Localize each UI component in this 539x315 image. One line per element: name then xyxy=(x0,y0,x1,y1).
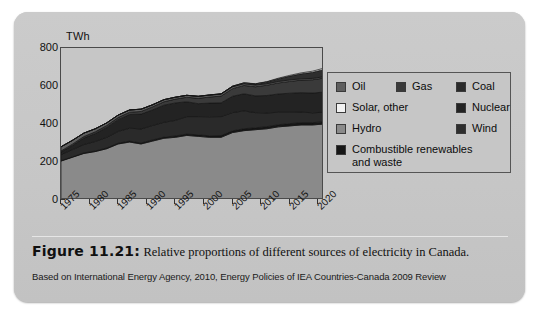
chart-figure: TWh 0200400600800 1975198019851990199520… xyxy=(14,12,525,230)
legend-label-gas: Gas xyxy=(412,80,432,93)
legend-label-combustible-renewables: Combustible renewables and waste xyxy=(352,143,480,169)
legend-swatch-combustible-renewables xyxy=(336,145,346,155)
figure-caption: Figure 11.21: Relative proportions of di… xyxy=(32,244,510,260)
x-axis-tick-labels: 1975198019851990199520002005201020152020 xyxy=(60,204,350,234)
legend-label-nuclear: Nuclear xyxy=(472,101,510,114)
y-tick-label: 400 xyxy=(24,117,58,129)
legend-swatch-nuclear xyxy=(456,103,466,113)
caption-divider xyxy=(32,236,508,237)
legend-swatch-wind xyxy=(456,124,466,134)
legend-item-combustible-renewables[interactable]: Combustible renewables and waste xyxy=(336,143,480,169)
y-axis-tick-labels: 0200400600800 xyxy=(18,47,58,199)
figure-page: TWh 0200400600800 1975198019851990199520… xyxy=(0,0,539,315)
legend-swatch-oil xyxy=(336,82,346,92)
legend-item-nuclear[interactable]: Nuclear xyxy=(456,101,510,114)
y-tick-label: 800 xyxy=(24,41,58,53)
legend-label-solar-other: Solar, other xyxy=(352,101,408,114)
legend-item-solar-other[interactable]: Solar, other xyxy=(336,101,408,114)
legend-label-coal: Coal xyxy=(472,80,495,93)
y-tick-label: 200 xyxy=(24,155,58,167)
legend-swatch-solar-other xyxy=(336,103,346,113)
stacked-area-chart xyxy=(61,48,323,199)
caption-text: Relative proportions of different source… xyxy=(143,245,469,259)
plot-area xyxy=(60,47,323,199)
legend-label-wind: Wind xyxy=(472,122,497,135)
legend-item-hydro[interactable]: Hydro xyxy=(336,122,381,135)
legend-item-coal[interactable]: Coal xyxy=(456,80,495,93)
figure-source: Based on International Energy Agency, 20… xyxy=(32,271,510,282)
caption-separator: : xyxy=(134,243,140,259)
plot-frame xyxy=(60,47,323,199)
legend-item-oil[interactable]: Oil xyxy=(336,80,365,93)
chart-legend: Oil Gas Coal Solar, other Nuclear xyxy=(327,72,511,173)
y-axis-title: TWh xyxy=(66,30,90,42)
legend-item-wind[interactable]: Wind xyxy=(456,122,497,135)
legend-label-oil: Oil xyxy=(352,80,365,93)
figure-number: Figure 11.21 xyxy=(32,243,134,259)
legend-label-hydro: Hydro xyxy=(352,122,381,135)
figure-panel: TWh 0200400600800 1975198019851990199520… xyxy=(14,12,525,302)
legend-swatch-hydro xyxy=(336,124,346,134)
legend-swatch-coal xyxy=(456,82,466,92)
y-tick-label: 0 xyxy=(24,193,58,205)
legend-item-gas[interactable]: Gas xyxy=(396,80,432,93)
legend-swatch-gas xyxy=(396,82,406,92)
y-tick-label: 600 xyxy=(24,79,58,91)
